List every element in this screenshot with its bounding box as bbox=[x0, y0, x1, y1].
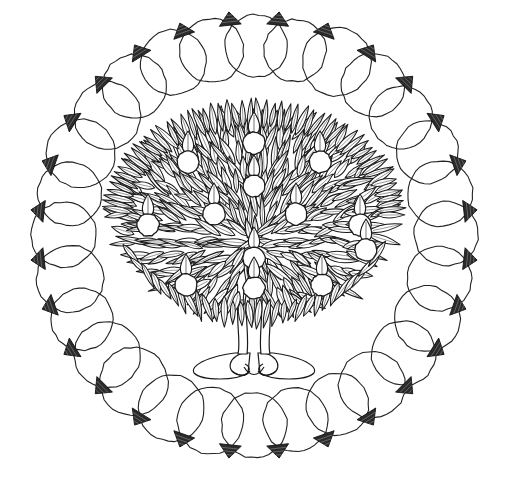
mandala-tree-illustration bbox=[0, 0, 508, 484]
fruit-body bbox=[285, 203, 306, 226]
fruit-body bbox=[137, 214, 160, 236]
fruit-body bbox=[243, 132, 265, 155]
coloring-page-canvas bbox=[0, 0, 508, 484]
fruit-body bbox=[309, 151, 331, 173]
fruit-body bbox=[243, 277, 266, 299]
fruit-body bbox=[177, 151, 199, 173]
fruit-body bbox=[355, 239, 377, 261]
fruit-body bbox=[203, 203, 225, 225]
fruit-body bbox=[175, 274, 197, 296]
fruit-body bbox=[311, 274, 333, 296]
fruit-body bbox=[243, 175, 265, 197]
